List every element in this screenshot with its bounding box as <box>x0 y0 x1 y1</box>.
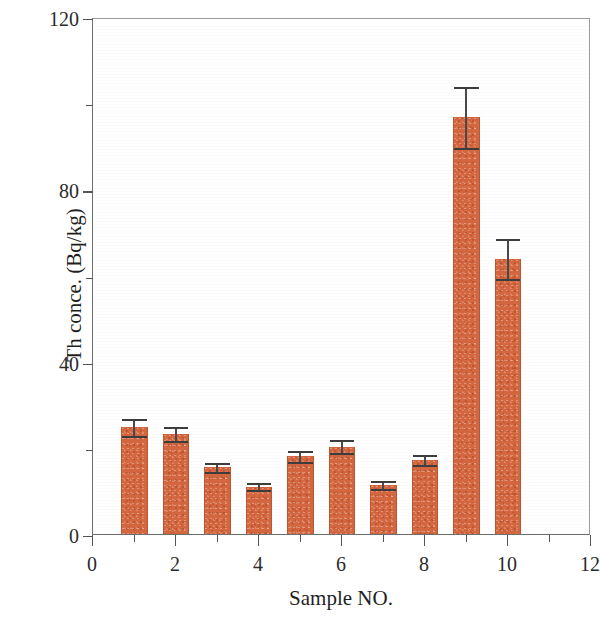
error-bar-stem <box>341 440 343 454</box>
error-bar <box>370 17 396 534</box>
error-bar <box>287 17 313 534</box>
error-bar <box>453 17 479 534</box>
error-bar-cap-bottom <box>164 441 188 443</box>
error-bar-cap-top <box>288 451 312 453</box>
x-tick-minor <box>549 535 550 542</box>
error-bar <box>121 17 147 534</box>
error-bar-cap-bottom <box>205 472 229 474</box>
error-bar <box>163 17 189 534</box>
error-bar-cap-top <box>247 483 271 485</box>
error-bar-cap-bottom <box>496 279 520 281</box>
x-tick-major <box>424 535 425 546</box>
error-bar-cap-top <box>496 239 520 241</box>
y-tick-label: 0 <box>69 526 79 546</box>
x-tick-major <box>92 535 93 546</box>
x-tick-minor <box>217 535 218 542</box>
error-bar-cap-bottom <box>288 462 312 464</box>
x-tick-major <box>341 535 342 546</box>
x-tick-major <box>258 535 259 546</box>
y-tick-minor <box>86 450 93 451</box>
error-bar-cap-top <box>371 481 395 483</box>
y-tick-major <box>83 364 93 365</box>
error-bar <box>412 17 438 534</box>
x-tick-label: 0 <box>87 554 97 574</box>
x-tick-major <box>175 535 176 546</box>
error-bar-cap-bottom <box>330 453 354 455</box>
plot-area: 04080120 <box>92 18 590 535</box>
error-bar-stem <box>507 239 509 279</box>
y-tick-major <box>83 191 93 192</box>
y-axis-title-wrap: Th conce. (Bq/kg) <box>0 120 40 450</box>
error-bar-cap-top <box>413 455 437 457</box>
x-tick-minor <box>300 535 301 542</box>
y-tick-minor <box>86 278 93 279</box>
x-tick-label: 4 <box>253 554 263 574</box>
error-bar-cap-bottom <box>454 148 478 150</box>
y-tick-label: 120 <box>49 9 79 29</box>
error-bar-stem <box>175 427 177 442</box>
error-bar-cap-bottom <box>371 489 395 491</box>
x-axis-title: Sample NO. <box>92 586 590 611</box>
error-bar <box>204 17 230 534</box>
error-bar-stem <box>133 419 135 436</box>
x-tick-major <box>590 535 591 546</box>
x-tick-minor <box>134 535 135 542</box>
error-bar <box>329 17 355 534</box>
error-bar-cap-top <box>454 87 478 89</box>
error-bar-cap-top <box>205 463 229 465</box>
y-tick-label: 40 <box>59 354 79 374</box>
x-tick-minor <box>466 535 467 542</box>
x-tick-minor <box>383 535 384 542</box>
x-tick-label: 6 <box>336 554 346 574</box>
y-tick-label: 80 <box>59 181 79 201</box>
error-bar-stem <box>465 87 467 147</box>
error-bar <box>495 17 521 534</box>
x-tick-label: 8 <box>419 554 429 574</box>
error-bar-cap-top <box>122 419 146 421</box>
error-bar-cap-top <box>164 427 188 429</box>
y-axis-title: Th conce. (Bq/kg) <box>62 208 87 361</box>
error-bar-cap-top <box>330 440 354 442</box>
x-tick-label: 12 <box>580 554 600 574</box>
y-tick-major <box>83 19 93 20</box>
error-bar-cap-bottom <box>122 436 146 438</box>
error-bar <box>246 17 272 534</box>
x-tick-label: 2 <box>170 554 180 574</box>
y-tick-minor <box>86 105 93 106</box>
x-tick-major <box>507 535 508 546</box>
thorium-concentration-bar-chart: Th conce. (Bq/kg) 04080120 024681012 Sam… <box>0 0 600 619</box>
x-tick-label: 10 <box>497 554 517 574</box>
error-bar-cap-bottom <box>413 465 437 467</box>
error-bar-cap-bottom <box>247 490 271 492</box>
